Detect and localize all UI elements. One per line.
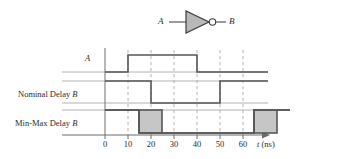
uncertainty-region-2 [254,110,277,133]
uncertainty-region-1 [139,110,162,133]
waveform-signal-a [105,55,268,72]
waveform-plot: A Nominal Delay B Min-Max Delay B 0 10 2… [0,40,343,159]
waveform-svg [0,40,343,159]
axis-ticks [105,135,243,139]
inverter-symbol-svg [0,0,343,44]
inverter-triangle [186,11,209,33]
inverter-bubble [209,19,215,25]
waveform-nominal-delay-b [105,81,268,103]
timing-diagram-figure: A B A Nominal Delay B Min-Max Delay B 0 … [0,0,343,159]
inverter-gate-symbol: A B [0,0,343,44]
